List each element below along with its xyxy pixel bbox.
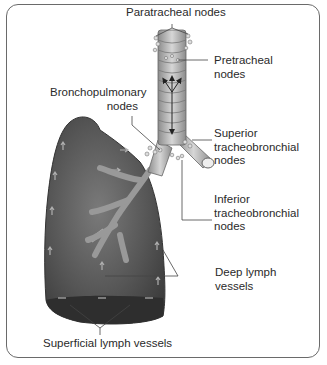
label-deep-lymph-vessels: Deep lymph vessels bbox=[215, 266, 276, 293]
trachea bbox=[145, 30, 192, 160]
label-bronchopulmonary-nodes: Bronchopulmonary nodes bbox=[50, 86, 138, 113]
label-superficial-lymph-vessels: Superficial lymph vessels bbox=[43, 337, 172, 351]
lung-illustration bbox=[0, 0, 327, 365]
label-paratracheal-nodes: Paratracheal nodes bbox=[126, 6, 226, 20]
label-inferior-tracheobronchial-nodes: Inferior tracheobronchial nodes bbox=[214, 193, 299, 234]
label-superior-tracheobronchial-nodes: Superior tracheobronchial nodes bbox=[214, 127, 299, 168]
lung bbox=[45, 117, 165, 324]
label-pretracheal-nodes: Pretracheal nodes bbox=[214, 54, 273, 81]
lung-base bbox=[46, 296, 164, 324]
